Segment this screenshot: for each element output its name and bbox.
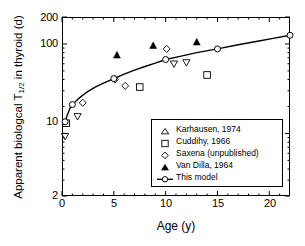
y-axis-label-pre: Apparent biologcal T xyxy=(12,93,24,198)
y-axis-tick-labels: 200 100 10 2 xyxy=(22,0,58,246)
legend-label: Karhausen, 1974 xyxy=(176,125,241,134)
x-axis-label: Age (y) xyxy=(62,219,290,233)
legend-item-van-dilla[interactable]: Van Dilla, 1964 xyxy=(154,159,280,171)
legend-label: Saxena (unpublished) xyxy=(176,149,259,158)
x-tick-15: 15 xyxy=(203,198,233,209)
y-axis-label-post: in thyroid (d) xyxy=(12,15,24,82)
x-tick-10: 10 xyxy=(151,198,181,209)
legend-item-cuddihy[interactable]: Cuddihy, 1966 xyxy=(154,135,280,147)
x-tick-0: 0 xyxy=(47,198,77,209)
legend-label: Van Dilla, 1964 xyxy=(176,161,233,170)
open-square-icon xyxy=(154,135,176,147)
y-tick-10: 10 xyxy=(24,116,58,127)
y-tick-200: 200 xyxy=(24,12,58,23)
y-axis-label-subscript: 1/2 xyxy=(17,82,26,93)
legend-item-saxena[interactable]: Saxena (unpublished) xyxy=(154,147,280,159)
open-diamond-icon xyxy=(154,147,176,159)
y-axis-label: Apparent biologcal T1/2 in thyroid (d) xyxy=(12,7,24,207)
legend-label: This model xyxy=(176,173,218,182)
filled-triangle-icon xyxy=(154,159,176,171)
legend-label: Cuddihy, 1966 xyxy=(176,137,230,146)
y-tick-100: 100 xyxy=(24,38,58,49)
legend: Karhausen, 1974 Cuddihy, 1966 Saxena (un… xyxy=(151,119,283,187)
line-open-circle-icon xyxy=(154,171,176,183)
figure-container: 200 100 10 2 0 5 10 15 20 Age (y) Appare… xyxy=(0,0,305,246)
legend-item-karhausen[interactable]: Karhausen, 1974 xyxy=(154,123,280,135)
legend-item-this-model[interactable]: This model xyxy=(154,171,280,183)
open-down-triangle-icon xyxy=(154,123,176,135)
x-tick-5: 5 xyxy=(99,198,129,209)
x-tick-20: 20 xyxy=(255,198,285,209)
